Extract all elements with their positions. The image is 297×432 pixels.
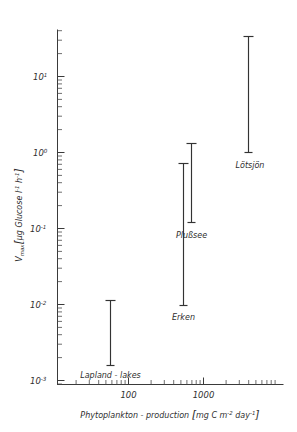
series-label-erken: Erken: [172, 313, 195, 322]
range-bar-lotsjon[interactable]: [244, 37, 254, 153]
range-bar-plussee[interactable]: [187, 144, 197, 223]
x-tick-label-1000: 1000: [193, 390, 215, 400]
series-label-lapland-lakes: Lapland - lakes: [80, 371, 141, 380]
x-tick-labels: 100 1000: [120, 390, 214, 400]
y-tick-label-10e-1: 10-1: [30, 224, 46, 235]
series-labels-group: Lapland - lakes Erken Plußsee Lötsjön: [80, 161, 264, 380]
y-tick-label-10e-2: 10-2: [30, 300, 47, 311]
x-tick-label-100: 100: [120, 390, 136, 400]
y-tick-label-10e0: 100: [33, 148, 48, 159]
series-label-plussee: Plußsee: [176, 231, 207, 240]
y-axis-title: Vmax[µg Glucose l-1 h-1]: [12, 168, 25, 262]
y-axis-minor-ticks: [58, 31, 63, 384]
x-axis-minor-ticks: [76, 380, 275, 385]
figure-container: 101 100 10-1 10-2 10-3 100 1000: [0, 0, 297, 432]
series-label-lotsjon: Lötsjön: [236, 161, 265, 170]
y-tick-label-10e-3: 10-3: [30, 376, 47, 387]
x-axis-title: Phytoplankton - production [mg C m-2 day…: [80, 408, 259, 421]
log-log-scatter-plot: 101 100 10-1 10-2 10-3 100 1000: [0, 0, 297, 432]
y-tick-labels: 101 100 10-1 10-2 10-3: [30, 72, 48, 387]
y-tick-label-10e1: 101: [33, 72, 47, 83]
y-axis-title-group: Vmax[µg Glucose l-1 h-1]: [12, 168, 25, 262]
range-bar-lapland-lakes[interactable]: [106, 301, 116, 366]
axis-group: [58, 30, 284, 385]
